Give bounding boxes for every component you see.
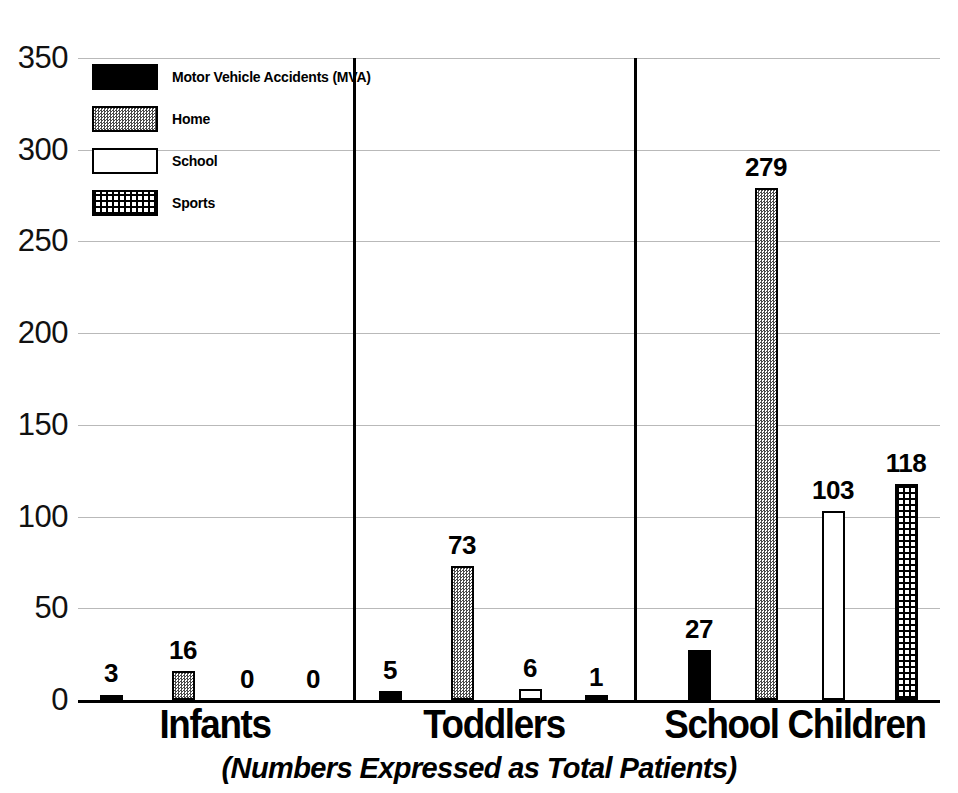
bar-value-label: 3 [66, 660, 156, 686]
bar-mva [379, 691, 402, 700]
y-axis-tick-label: 50 [0, 592, 68, 623]
legend-swatch-sports-icon [92, 190, 158, 216]
legend-item-sports[interactable]: Sports [92, 188, 382, 218]
bar-value-label: 118 [861, 450, 951, 476]
legend-item-mva[interactable]: Motor Vehicle Accidents (MVA) [92, 62, 382, 92]
legend-label: School [172, 153, 217, 169]
category-label-school-children: School Children [611, 704, 958, 744]
bar-value-label: 279 [721, 154, 811, 180]
group-divider [634, 58, 637, 700]
bar-chart: 350300250200150100500 316005736127279103… [0, 0, 958, 793]
bar-mva [688, 650, 711, 700]
bar-home [451, 566, 474, 700]
y-axis-tick-label: 200 [0, 317, 68, 348]
bar-home [755, 188, 778, 700]
gridline [78, 58, 940, 59]
bar-value-label: 5 [345, 657, 435, 683]
legend-swatch-school-icon [92, 148, 158, 174]
bar-value-label: 16 [138, 637, 228, 663]
bar-sports [585, 695, 608, 700]
gridline [78, 241, 940, 242]
legend-label: Sports [172, 195, 215, 211]
gridline [78, 608, 940, 609]
legend-label: Motor Vehicle Accidents (MVA) [172, 69, 371, 85]
bar-value-label: 103 [788, 477, 878, 503]
bar-home [172, 671, 195, 700]
legend-item-home[interactable]: Home [92, 104, 382, 134]
y-axis-tick-label: 150 [0, 409, 68, 440]
gridline [78, 425, 940, 426]
bar-school [822, 511, 845, 700]
y-axis-tick-label: 350 [0, 42, 68, 73]
legend-item-school[interactable]: School [92, 146, 382, 176]
legend-swatch-mva-icon [92, 64, 158, 90]
chart-subtitle: (Numbers Expressed as Total Patients) [0, 752, 958, 785]
y-axis-tick-label: 250 [0, 225, 68, 256]
y-axis-tick-label: 300 [0, 134, 68, 165]
legend-swatch-home-icon [92, 106, 158, 132]
gridline [78, 517, 940, 518]
bar-value-label: 27 [654, 616, 744, 642]
chart-legend: Motor Vehicle Accidents (MVA)HomeSchoolS… [92, 62, 382, 230]
bar-value-label: 73 [417, 532, 507, 558]
bar-value-label: 1 [551, 664, 641, 690]
bar-sports [895, 484, 918, 700]
gridline [78, 333, 940, 334]
bar-mva [100, 695, 123, 701]
y-axis-tick-label: 100 [0, 501, 68, 532]
legend-label: Home [172, 111, 210, 127]
bar-school [519, 689, 542, 700]
